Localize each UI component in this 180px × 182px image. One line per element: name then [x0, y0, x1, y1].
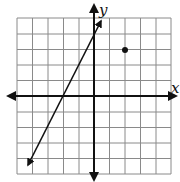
- plotted-point: [122, 47, 128, 53]
- coordinate-plane: y x: [0, 0, 180, 182]
- y-axis-label: y: [98, 1, 108, 19]
- x-axis-label: x: [171, 79, 180, 97]
